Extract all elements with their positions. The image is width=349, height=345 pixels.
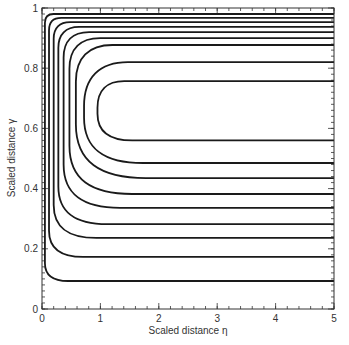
x-tick-label: 3 bbox=[214, 313, 220, 324]
contour-line bbox=[64, 32, 334, 208]
y-tick-label: 0 bbox=[32, 304, 38, 315]
x-tick-label: 4 bbox=[273, 313, 279, 324]
contour-line bbox=[76, 45, 334, 178]
x-tick-labels: 012345 bbox=[39, 313, 337, 324]
y-tick-label: 0.2 bbox=[24, 243, 38, 254]
contour-line bbox=[45, 14, 334, 281]
contour-chart: 012345 00.20.40.60.81 Scaled distance η … bbox=[0, 0, 349, 345]
y-tick-label: 0.8 bbox=[24, 63, 38, 74]
contour-curves bbox=[45, 14, 334, 281]
contour-line bbox=[97, 81, 334, 140]
x-tick-label: 0 bbox=[39, 313, 45, 324]
x-axis-label: Scaled distance η bbox=[149, 325, 228, 336]
x-tick-label: 5 bbox=[331, 313, 337, 324]
contour-line bbox=[84, 62, 334, 163]
x-tick-label: 1 bbox=[98, 313, 104, 324]
y-tick-labels: 00.20.40.60.81 bbox=[24, 3, 38, 315]
contour-line bbox=[49, 18, 334, 257]
x-tick-label: 2 bbox=[156, 313, 162, 324]
y-tick-label: 0.6 bbox=[24, 123, 38, 134]
y-tick-label: 1 bbox=[32, 3, 38, 14]
y-tick-label: 0.4 bbox=[24, 183, 38, 194]
y-axis-label: Scaled distance γ bbox=[6, 119, 17, 197]
